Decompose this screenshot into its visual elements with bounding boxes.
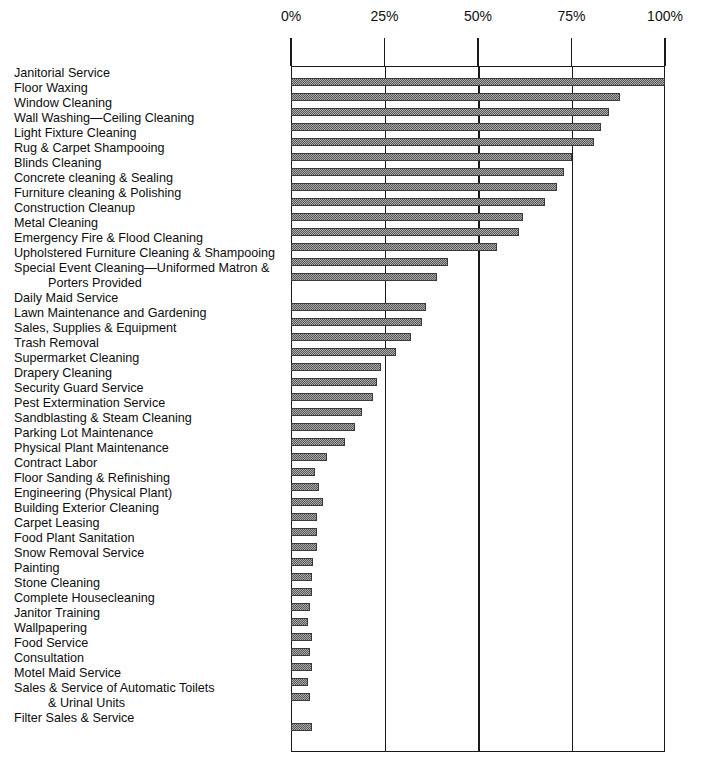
category-label-line1: Metal Cleaning (14, 216, 98, 230)
bar (291, 648, 310, 656)
bar-row (291, 345, 665, 360)
category-label-line1: Construction Cleanup (14, 201, 135, 215)
category-label: Food Service (14, 636, 285, 651)
bar-row (291, 615, 665, 630)
category-label-line1: Stone Cleaning (14, 576, 100, 590)
x-tick-mark-75 (571, 38, 573, 66)
category-label: Construction Cleanup (14, 201, 285, 216)
bar-row (291, 210, 665, 225)
category-label-line1: Supermarket Cleaning (14, 351, 139, 365)
bar-row (291, 495, 665, 510)
category-label-line1: Rug & Carpet Shampooing (14, 141, 165, 155)
category-label: Wall Washing—Ceiling Cleaning (14, 111, 285, 126)
bar-row (291, 435, 665, 450)
category-label-line1: Building Exterior Cleaning (14, 501, 159, 515)
bar-row (291, 330, 665, 345)
category-label-line1: Light Fixture Cleaning (14, 126, 137, 140)
category-label-line1: Furniture cleaning & Polishing (14, 186, 181, 200)
category-label-line1: Janitor Training (14, 606, 100, 620)
bar (291, 603, 310, 611)
x-tick-label-75: 75% (557, 8, 585, 24)
bar (291, 513, 317, 521)
bar-row (291, 165, 665, 180)
category-label: Blinds Cleaning (14, 156, 285, 171)
bar-row (291, 405, 665, 420)
bar (291, 453, 327, 461)
category-label-line1: Motel Maid Service (14, 666, 121, 680)
category-label: Filter Sales & Service (14, 711, 285, 726)
category-label-line1: Complete Housecleaning (14, 591, 155, 605)
category-label: Metal Cleaning (14, 216, 285, 231)
bar-row (291, 660, 665, 675)
category-label-line1: Janitorial Service (14, 66, 110, 80)
bar (291, 213, 523, 221)
bar (291, 378, 377, 386)
category-label: Stone Cleaning (14, 576, 285, 591)
category-label-line2: & Urinal Units (14, 696, 285, 711)
bar-row (291, 180, 665, 195)
bar-row (291, 465, 665, 480)
bar (291, 333, 411, 341)
category-label-line1: Pest Extermination Service (14, 396, 165, 410)
x-tick-label-0: 0% (281, 8, 301, 24)
bar-row (291, 555, 665, 570)
bar (291, 228, 519, 236)
bar (291, 168, 564, 176)
bar (291, 198, 545, 206)
bar-row (291, 675, 665, 690)
bar-row (291, 90, 665, 105)
bar (291, 348, 396, 356)
bar (291, 543, 317, 551)
category-label: Pest Extermination Service (14, 396, 285, 411)
bar-row (291, 360, 665, 375)
category-label: Carpet Leasing (14, 516, 285, 531)
category-label-line1: Floor Waxing (14, 81, 88, 95)
category-label: Floor Waxing (14, 81, 285, 96)
category-label-line1: Sandblasting & Steam Cleaning (14, 411, 192, 425)
category-label-line1: Filter Sales & Service (14, 711, 134, 725)
bar-row (291, 75, 665, 90)
category-label: Wallpapering (14, 621, 285, 636)
category-label-line1: Parking Lot Maintenance (14, 426, 153, 440)
category-label: Rug & Carpet Shampooing (14, 141, 285, 156)
category-label-line1: Security Guard Service (14, 381, 144, 395)
x-tick-label-25: 25% (370, 8, 398, 24)
category-label-line1: Sales & Service of Automatic Toilets (14, 681, 215, 695)
category-label: Window Cleaning (14, 96, 285, 111)
category-label-line1: Drapery Cleaning (14, 366, 112, 380)
category-label-line1: Floor Sanding & Refinishing (14, 471, 170, 485)
bar (291, 678, 308, 686)
category-label: Emergency Fire & Flood Cleaning (14, 231, 285, 246)
category-label: Security Guard Service (14, 381, 285, 396)
category-label: Supermarket Cleaning (14, 351, 285, 366)
bar (291, 123, 601, 131)
category-label: Trash Removal (14, 336, 285, 351)
bar (291, 618, 308, 626)
category-label: Light Fixture Cleaning (14, 126, 285, 141)
bar (291, 498, 323, 506)
bar (291, 243, 497, 251)
bar (291, 78, 665, 86)
bar-row (291, 480, 665, 495)
bar (291, 393, 373, 401)
bar-row (291, 195, 665, 210)
category-label-line1: Window Cleaning (14, 96, 112, 110)
bar (291, 138, 594, 146)
bar (291, 93, 620, 101)
category-label-line1: Special Event Cleaning—Uniformed Matron … (14, 261, 270, 275)
bar-row (291, 630, 665, 645)
category-label-line1: Carpet Leasing (14, 516, 99, 530)
bar-row (291, 300, 665, 315)
category-label-line1: Wall Washing—Ceiling Cleaning (14, 111, 194, 125)
category-label-line1: Painting (14, 561, 60, 575)
x-tick-label-100: 100% (647, 8, 683, 24)
bar-row (291, 420, 665, 435)
x-tick-label-50: 50% (464, 8, 492, 24)
category-label: Sales & Service of Automatic Toilets& Ur… (14, 681, 285, 711)
category-label-line1: Food Plant Sanitation (14, 531, 134, 545)
category-label-line1: Concrete cleaning & Sealing (14, 171, 173, 185)
bar (291, 588, 312, 596)
bar-row (291, 150, 665, 165)
category-label: Food Plant Sanitation (14, 531, 285, 546)
bar (291, 663, 312, 671)
